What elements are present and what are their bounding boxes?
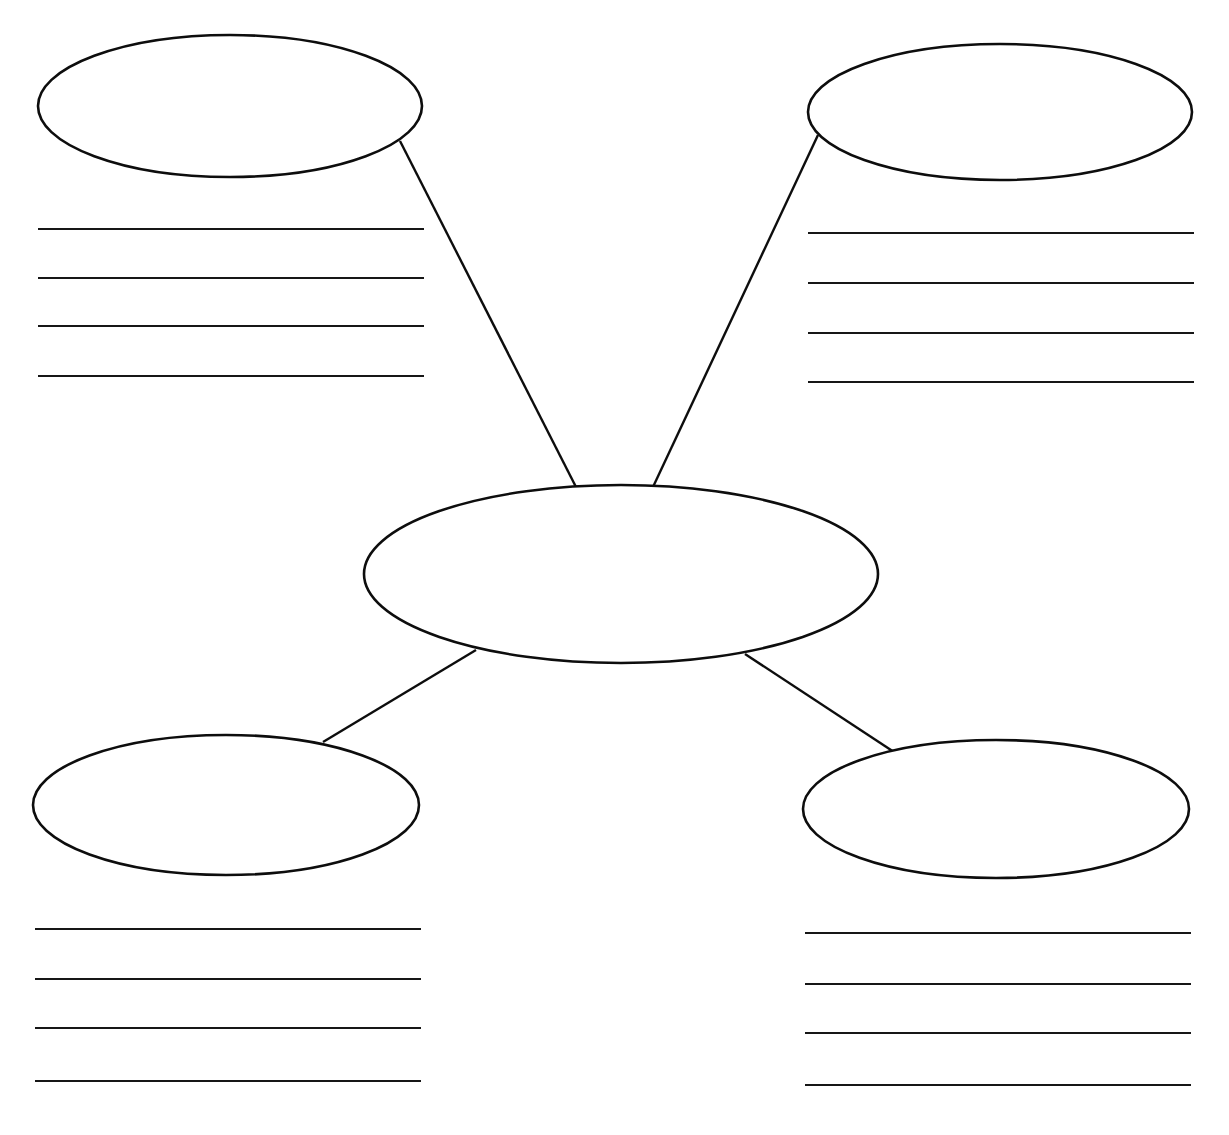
- bottom-left-node[interactable]: [33, 735, 419, 875]
- connector-center-to-top-left: [400, 141, 576, 487]
- writing-lines-bottom-right[interactable]: [805, 933, 1191, 1085]
- writing-lines-top-right[interactable]: [808, 233, 1194, 382]
- concept-map-canvas: [0, 0, 1229, 1135]
- worksheet-page: [0, 0, 1229, 1135]
- node-group: [33, 35, 1192, 878]
- writing-lines-top-left[interactable]: [38, 229, 424, 376]
- connector-center-to-top-right: [653, 135, 818, 487]
- top-left-node[interactable]: [38, 35, 422, 177]
- center-node[interactable]: [364, 485, 878, 663]
- bottom-right-node[interactable]: [803, 740, 1189, 878]
- connector-center-to-bottom-right: [745, 654, 894, 752]
- writing-lines-bottom-left[interactable]: [35, 929, 421, 1081]
- connector-center-to-bottom-left: [323, 650, 476, 742]
- top-right-node[interactable]: [808, 44, 1192, 180]
